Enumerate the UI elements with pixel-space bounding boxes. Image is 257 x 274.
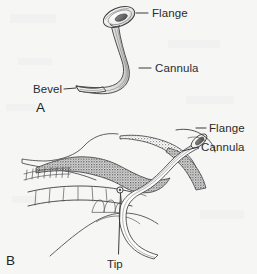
label-flange-a: Flange [152, 7, 188, 19]
figure-container: Flange Cannula Bevel A [0, 0, 257, 274]
label-cannula-a: Cannula [155, 62, 199, 74]
cannula-tip-inner [119, 189, 121, 191]
label-tip-b: Tip [107, 258, 123, 270]
panel-letter-b: B [6, 253, 15, 268]
label-flange-b: Flange [209, 122, 245, 134]
figure-illustration: Flange Cannula Bevel A [0, 0, 257, 274]
label-bevel-a: Bevel [33, 83, 62, 95]
panel-letter-a: A [36, 100, 45, 115]
label-cannula-b: Cannula [201, 141, 245, 153]
